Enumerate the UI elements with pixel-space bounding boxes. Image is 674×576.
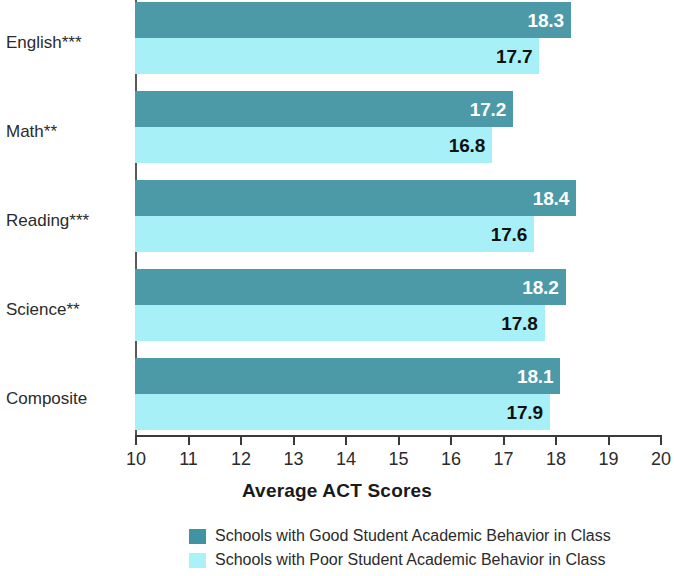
x-tick <box>660 435 662 445</box>
x-tick-label: 12 <box>221 450 261 468</box>
bar-good: 18.2 <box>135 269 566 305</box>
legend-label: Schools with Poor Student Academic Behav… <box>215 552 605 568</box>
bar-value-label: 17.6 <box>491 225 527 244</box>
legend-label: Schools with Good Student Academic Behav… <box>215 528 611 544</box>
bar-value-label: 17.8 <box>501 314 537 333</box>
bar-good: 17.2 <box>135 91 513 127</box>
x-tick <box>345 435 347 445</box>
x-tick-label: 16 <box>431 450 471 468</box>
bar-good: 18.4 <box>135 180 576 216</box>
category-label: Science** <box>6 301 130 318</box>
legend-item: Schools with Poor Student Academic Behav… <box>189 548 611 572</box>
bar-group: 18.117.9 <box>135 358 660 430</box>
x-tick-label: 14 <box>326 450 366 468</box>
x-tick-label: 19 <box>589 450 629 468</box>
bar-value-label: 18.4 <box>533 189 569 208</box>
x-tick <box>398 435 400 445</box>
bar-poor: 17.6 <box>135 216 534 252</box>
legend-swatch <box>189 529 206 544</box>
x-tick-label: 17 <box>484 450 524 468</box>
x-tick-label: 13 <box>274 450 314 468</box>
bar-poor: 17.8 <box>135 305 545 341</box>
bar-group: 18.417.6 <box>135 180 660 252</box>
x-tick-label: 10 <box>116 450 156 468</box>
bar-group: 17.216.8 <box>135 91 660 163</box>
legend-item: Schools with Good Student Academic Behav… <box>189 524 611 548</box>
category-label: Math** <box>6 123 130 140</box>
bar-value-label: 16.8 <box>449 136 485 155</box>
bar-group: 18.317.7 <box>135 2 660 74</box>
bar-good: 18.3 <box>135 2 571 38</box>
bar-value-label: 17.2 <box>470 100 506 119</box>
x-tick-label: 15 <box>379 450 419 468</box>
bar-poor: 17.9 <box>135 394 550 430</box>
x-tick <box>450 435 452 445</box>
bar-value-label: 18.1 <box>517 367 553 386</box>
legend-swatch <box>189 553 206 568</box>
x-tick-label: 18 <box>536 450 576 468</box>
x-tick <box>503 435 505 445</box>
x-tick-label: 20 <box>641 450 674 468</box>
bar-value-label: 18.2 <box>522 278 558 297</box>
x-tick <box>188 435 190 445</box>
x-tick <box>135 435 137 445</box>
x-tick-label: 11 <box>169 450 209 468</box>
plot-area: 18.317.717.216.818.417.618.217.818.117.9 <box>135 0 660 435</box>
chart-legend: Schools with Good Student Academic Behav… <box>189 524 611 572</box>
bar-group: 18.217.8 <box>135 269 660 341</box>
bar-value-label: 17.9 <box>507 403 543 422</box>
x-tick <box>293 435 295 445</box>
bar-poor: 16.8 <box>135 127 492 163</box>
bar-value-label: 17.7 <box>496 47 532 66</box>
x-axis-title: Average ACT Scores <box>0 480 674 502</box>
category-label: English*** <box>6 34 130 51</box>
category-label: Composite <box>6 390 130 407</box>
bar-value-label: 18.3 <box>528 11 564 30</box>
x-tick <box>555 435 557 445</box>
x-tick <box>240 435 242 445</box>
act-scores-bar-chart: 18.317.717.216.818.417.618.217.818.117.9… <box>0 0 674 576</box>
category-label: Reading*** <box>6 212 130 229</box>
bar-poor: 17.7 <box>135 38 539 74</box>
x-tick <box>608 435 610 445</box>
bar-good: 18.1 <box>135 358 560 394</box>
